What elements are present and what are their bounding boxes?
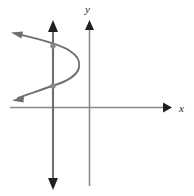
parabola-upper-left-arrowhead: [11, 32, 23, 39]
y-axis-arrowhead: [85, 20, 94, 30]
parabola-curve: [17, 34, 79, 98]
graph-figure: x y: [0, 0, 194, 196]
x-axis-group: x: [10, 102, 184, 114]
parabola-curve-group: [11, 32, 79, 103]
intersection-point-lower: [50, 83, 55, 88]
x-axis-arrowhead: [163, 103, 172, 113]
x-axis-label: x: [178, 102, 184, 114]
y-axis-label: y: [84, 3, 90, 15]
coordinate-plane-svg: x y: [0, 0, 194, 196]
vertical-line-top-arrowhead: [48, 20, 58, 32]
parabola-lower-left-arrowhead: [12, 96, 24, 103]
y-axis-group: y: [84, 3, 94, 186]
vertical-line-bottom-arrowhead: [48, 178, 58, 190]
intersection-point-upper: [50, 43, 55, 48]
